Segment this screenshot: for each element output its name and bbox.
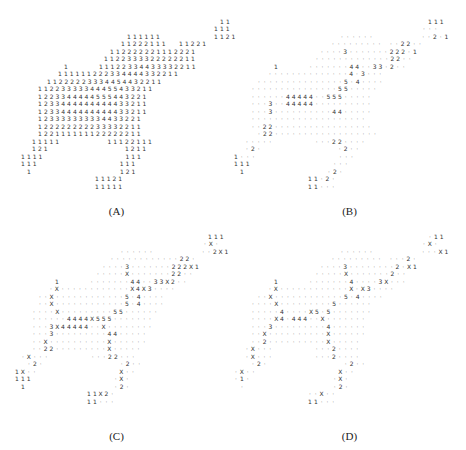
grid-dot: ·	[377, 70, 383, 78]
grid-dot: ·	[407, 55, 413, 63]
grid-dot: ·	[38, 360, 44, 368]
grid-value: 1	[136, 130, 142, 138]
grid-value: 1	[439, 18, 445, 26]
panel-c: 111·X·········2X1············22·····3···…	[0, 225, 233, 450]
grid-value: 1	[201, 40, 207, 48]
digit-grid: ·11·X··········X1············2·····3····…	[233, 225, 466, 425]
grid-dot: ·	[159, 300, 165, 308]
grid-dot: ·	[262, 360, 268, 368]
grid-value: 1	[194, 263, 200, 271]
panel-caption: (B)	[233, 205, 466, 217]
grid-dot: ·	[109, 398, 115, 406]
grid-dot: ·	[135, 345, 141, 353]
grid-dot: ·	[250, 153, 256, 161]
grid-dot: ·	[417, 40, 423, 48]
grid-value: 1	[130, 168, 136, 176]
grid-dot: ·	[338, 168, 344, 176]
grid-dot: ·	[239, 383, 245, 391]
grid-dot: ·	[31, 368, 37, 376]
grid-dot: ·	[147, 315, 153, 323]
grid-dot: ·	[330, 390, 336, 398]
grid-dot: ·	[267, 353, 273, 361]
grid-dot: ·	[360, 115, 366, 123]
grid-dot: ·	[372, 85, 378, 93]
grid-dot: ·	[330, 175, 336, 183]
grid-dot: ·	[330, 183, 336, 191]
grid-dot: ·	[250, 368, 256, 376]
grid-dot: ·	[109, 390, 115, 398]
grid-dot: ·	[401, 270, 407, 278]
grid-value: 1	[439, 233, 445, 241]
grid-value: 1	[239, 168, 245, 176]
grid-dot: ·	[433, 240, 439, 248]
grid-value: 1	[245, 160, 251, 168]
grid-dot: ·	[360, 330, 366, 338]
grid-value: 1	[191, 63, 197, 71]
grid-dot: ·	[401, 278, 407, 286]
grid-value: 1	[161, 40, 167, 48]
grid-dot: ·	[43, 353, 49, 361]
grid-dot: ·	[354, 145, 360, 153]
grid-dot: ·	[124, 383, 130, 391]
grid-dot: ·	[256, 145, 262, 153]
grid-dot: ·	[360, 138, 366, 146]
grid-value: 1	[147, 138, 153, 146]
panel-caption: (D)	[233, 430, 466, 442]
grid-dot: ·	[267, 345, 273, 353]
grid-value: 1	[43, 145, 49, 153]
grid-dot: ·	[366, 308, 372, 316]
grid-dot: ·	[343, 383, 349, 391]
grid-dot: ·	[343, 375, 349, 383]
grid-dot: ·	[354, 345, 360, 353]
grid-dot: ·	[378, 78, 384, 86]
grid-value: 1	[147, 85, 153, 93]
grid-dot: ·	[330, 398, 336, 406]
digit-grid: 1111111111111211122211111221112222221112…	[0, 0, 233, 200]
grid-dot: ·	[360, 360, 366, 368]
grid-dot: ·	[170, 285, 176, 293]
grid-dot: ·	[360, 315, 366, 323]
grid-value: 1	[225, 25, 231, 33]
grid-dot: ·	[349, 368, 355, 376]
grid-value: 1	[37, 153, 43, 161]
grid-value: 1	[117, 175, 123, 183]
grid-dot: ·	[376, 40, 382, 48]
panel-b: 111···········2·1···········22······3···…	[233, 0, 466, 225]
grid-dot: ·	[401, 63, 407, 71]
grid-dot: ·	[188, 270, 194, 278]
grid-value: 1	[54, 138, 60, 146]
grid-dot: ·	[124, 375, 130, 383]
grid-dot: ·	[376, 255, 382, 263]
grid-value: 1	[20, 383, 26, 391]
grid-dot: ·	[366, 300, 372, 308]
grid-value: 1	[443, 33, 449, 41]
grid-dot: ·	[182, 278, 188, 286]
grid-value: 1	[26, 375, 32, 383]
grid-dot: ·	[190, 255, 196, 263]
panel-caption: (A)	[0, 205, 233, 217]
grid-dot: ·	[411, 255, 417, 263]
grid-value: 1	[136, 153, 142, 161]
grid-value: 1	[223, 248, 229, 256]
grid-dot: ·	[141, 330, 147, 338]
grid-value: 1	[190, 55, 196, 63]
grid-dot: ·	[366, 100, 372, 108]
panel-d: ·11·X··········X1············2·····3····…	[233, 225, 466, 450]
grid-dot: ·	[366, 108, 372, 116]
grid-dot: ·	[147, 323, 153, 331]
grid-dot: ·	[349, 153, 355, 161]
grid-value: 1	[443, 248, 449, 256]
grid-value: 1	[32, 160, 38, 168]
grid-value: 1	[141, 145, 147, 153]
grid-dot: ·	[130, 368, 136, 376]
grid-value: 1	[141, 108, 147, 116]
grid-dot: ·	[245, 375, 251, 383]
grid-dot: ·	[267, 138, 273, 146]
grid-value: 1	[141, 100, 147, 108]
grid-dot: ·	[372, 130, 378, 138]
panel-a: 1111111111111211122211111221112222221112…	[0, 0, 233, 225]
grid-dot: ·	[389, 285, 395, 293]
panel-caption: (C)	[0, 430, 233, 442]
digit-grid: 111···········2·1···········22······3···…	[233, 0, 466, 200]
grid-value: 1	[130, 160, 136, 168]
